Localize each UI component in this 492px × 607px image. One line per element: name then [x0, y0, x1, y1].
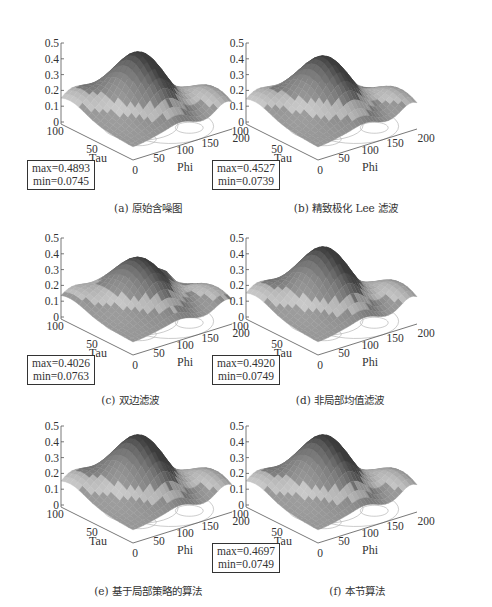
z-tick-label: 0.5	[230, 420, 245, 432]
z-tick-label: 0.4	[45, 53, 60, 65]
max-min-statbox: max=0.4920min=0.0749	[212, 355, 280, 385]
min-value: min=0.0749	[217, 558, 275, 571]
z-tick-label: 0.1	[230, 295, 245, 307]
phi-tick-label: 50	[153, 152, 165, 164]
max-value: max=0.4920	[217, 357, 275, 370]
phi-tick-label: 50	[338, 347, 350, 359]
tau-tick-label: 100	[46, 125, 64, 137]
tau-axis-label: Tau	[89, 534, 107, 548]
max-value: max=0.4527	[217, 162, 275, 175]
z-tick-label: 0.2	[45, 84, 60, 96]
z-tick-label: 0.5	[45, 232, 60, 244]
z-tick-label: 0.2	[230, 279, 245, 291]
z-tick-label: 0.2	[45, 279, 60, 291]
phi-tick-label: 100	[361, 339, 379, 351]
panel-d: 00.10.20.30.40.510050050100150200TauPhim…	[185, 195, 431, 395]
tau-tick-label: 0	[317, 164, 323, 176]
phi-tick-label: 50	[153, 347, 165, 359]
z-tick-label: 0.3	[230, 264, 245, 276]
z-tick-label: 0.1	[45, 483, 60, 495]
caption-b: (b) 精致极化 Lee 滤波	[294, 200, 398, 215]
phi-tick-label: 50	[338, 535, 350, 547]
z-tick-label: 0.3	[230, 69, 245, 81]
max-min-statbox: max=0.4527min=0.0739	[212, 160, 280, 190]
z-tick-label: 0.5	[230, 232, 245, 244]
max-value: max=0.4026	[32, 357, 90, 370]
phi-axis-label: Phi	[362, 543, 379, 557]
z-tick-label: 0.1	[230, 483, 245, 495]
tau-tick-label: 100	[231, 508, 249, 520]
caption-f: (f) 本节算法	[329, 583, 384, 598]
tau-tick-label: 0	[317, 547, 323, 559]
z-tick-label: 0.4	[45, 248, 60, 260]
min-value: min=0.0749	[217, 370, 275, 383]
z-tick-label: 0.5	[45, 420, 60, 432]
max-value: max=0.4893	[32, 162, 90, 175]
z-tick-label: 0.5	[45, 37, 60, 49]
caption-d: (d) 非局部均值滤波	[296, 392, 384, 407]
z-tick-label: 0.3	[45, 264, 60, 276]
max-min-statbox: max=0.4893min=0.0745	[27, 160, 95, 190]
phi-tick-label: 100	[361, 144, 379, 156]
phi-tick-label: 150	[386, 332, 404, 344]
phi-tick-label: 100	[361, 527, 379, 539]
z-tick-label: 0.4	[230, 248, 245, 260]
min-value: min=0.0745	[32, 175, 90, 188]
phi-axis-label: Phi	[362, 355, 379, 369]
caption-a: (a) 原始含噪图	[114, 200, 182, 215]
z-tick-label: 0.3	[45, 452, 60, 464]
caption-e: (e) 基于局部策略的算法	[94, 583, 202, 598]
phi-tick-label: 200	[417, 515, 435, 527]
phi-tick-label: 50	[338, 152, 350, 164]
tau-tick-label: 0	[132, 547, 138, 559]
phi-tick-label: 200	[417, 132, 435, 144]
phi-tick-label: 200	[417, 327, 435, 339]
tau-tick-label: 100	[231, 125, 249, 137]
phi-axis-label: Phi	[362, 160, 379, 174]
caption-c: (c) 双边滤波	[101, 392, 158, 407]
tau-tick-label: 0	[317, 359, 323, 371]
max-min-statbox: max=0.4697min=0.0749	[212, 543, 280, 573]
z-tick-label: 0.2	[45, 467, 60, 479]
z-tick-label: 0.5	[230, 37, 245, 49]
panel-f: 00.10.20.30.40.510050050100150200TauPhim…	[185, 383, 431, 583]
z-tick-label: 0.3	[230, 452, 245, 464]
tau-tick-label: 100	[46, 508, 64, 520]
z-tick-label: 0.2	[230, 84, 245, 96]
z-tick-label: 0.1	[230, 100, 245, 112]
z-tick-label: 0.4	[230, 53, 245, 65]
surface-mesh	[246, 56, 417, 147]
phi-tick-label: 150	[386, 137, 404, 149]
phi-tick-label: 150	[386, 520, 404, 532]
phi-tick-label: 50	[153, 535, 165, 547]
z-tick-label: 0.4	[230, 436, 245, 448]
max-min-statbox: max=0.4026min=0.0763	[27, 355, 95, 385]
tau-tick-label: 100	[46, 320, 64, 332]
z-tick-label: 0.1	[45, 295, 60, 307]
surface-mesh	[246, 435, 417, 530]
min-value: min=0.0763	[32, 370, 90, 383]
min-value: min=0.0739	[217, 175, 275, 188]
z-tick-label: 0.1	[45, 100, 60, 112]
surface-mesh	[246, 247, 417, 342]
z-tick-label: 0.2	[230, 467, 245, 479]
tau-tick-label: 0	[132, 359, 138, 371]
max-value: max=0.4697	[217, 545, 275, 558]
panel-b: 00.10.20.30.40.510050050100150200TauPhim…	[185, 0, 431, 200]
z-tick-label: 0.4	[45, 436, 60, 448]
z-tick-label: 0.3	[45, 69, 60, 81]
tau-tick-label: 100	[231, 320, 249, 332]
tau-tick-label: 0	[132, 164, 138, 176]
